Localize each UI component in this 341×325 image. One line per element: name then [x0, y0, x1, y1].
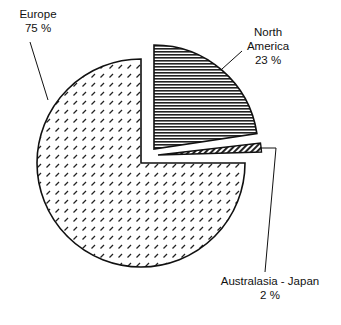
- label-australasia-japan-value: 2 %: [212, 288, 328, 302]
- label-australasia-japan: Australasia - Japan 2 %: [212, 274, 328, 302]
- label-australasia-japan-name: Australasia - Japan: [212, 274, 328, 288]
- label-north-america-name-2: America: [236, 39, 300, 53]
- label-north-america: North America 23 %: [236, 25, 300, 67]
- label-europe: Europe 75 %: [10, 7, 66, 35]
- label-europe-value: 75 %: [10, 21, 66, 35]
- label-north-america-name-1: North: [236, 25, 300, 39]
- leader-line-europe: [30, 42, 48, 100]
- label-north-america-value: 23 %: [236, 53, 300, 67]
- leader-line-australasia-japan: [261, 148, 276, 272]
- label-europe-name: Europe: [10, 7, 66, 21]
